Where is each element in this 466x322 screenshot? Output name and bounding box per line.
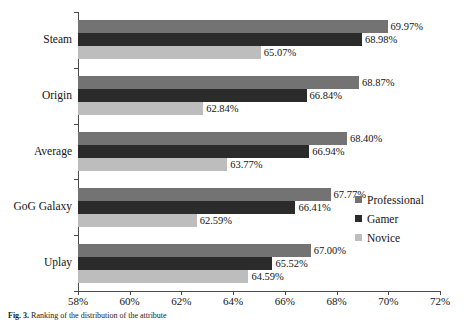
y-axis-category-label: Origin — [0, 89, 72, 101]
figure-container: 58%60%62%64%66%68%70%72% SteamOriginAver… — [0, 0, 466, 322]
chart-legend: ProfessionalGamerNovice — [355, 190, 465, 247]
x-axis-tick-label: 64% — [223, 295, 243, 307]
x-axis-line — [78, 291, 441, 292]
legend-item-novice[interactable]: Novice — [355, 228, 465, 247]
legend-swatch-icon — [355, 234, 362, 241]
y-axis-category-label: Average — [0, 145, 72, 157]
bar-professional-uplay — [78, 244, 311, 257]
y-axis-tick — [74, 124, 78, 125]
legend-swatch-icon — [355, 196, 362, 203]
bar-value-label: 65.52% — [275, 257, 307, 270]
legend-label: Novice — [367, 232, 400, 244]
figure-caption: Fig. 3. Ranking of the distribution of t… — [8, 311, 458, 321]
caption-text: Ranking of the distribution of the attri… — [31, 311, 167, 320]
y-axis-tick — [74, 291, 78, 292]
bar-value-label: 66.84% — [310, 89, 342, 102]
bar-value-label: 63.77% — [230, 158, 262, 171]
bar-professional-origin — [78, 76, 359, 89]
bar-value-label: 65.07% — [264, 46, 296, 59]
y-axis-tick — [74, 12, 78, 13]
x-axis-tick-label: 58% — [68, 295, 88, 307]
legend-swatch-icon — [355, 215, 362, 222]
bar-novice-uplay — [78, 270, 248, 283]
bar-value-label: 64.59% — [251, 270, 283, 283]
bar-value-label: 66.41% — [298, 201, 330, 214]
legend-label: Professional — [367, 194, 424, 206]
bar-novice-gog-galaxy — [78, 214, 197, 227]
bar-gamer-steam — [78, 33, 362, 46]
x-axis-tick-label: 60% — [120, 295, 140, 307]
bar-value-label: 67.00% — [314, 244, 346, 257]
bar-value-label: 68.87% — [362, 76, 394, 89]
bar-gamer-origin — [78, 89, 307, 102]
y-axis-tick — [74, 179, 78, 180]
x-axis-tick-label: 70% — [378, 295, 398, 307]
caption-prefix: Fig. 3. — [8, 311, 29, 320]
y-axis-category-label: Uplay — [0, 256, 72, 268]
y-axis-category-label: GoG Galaxy — [0, 200, 72, 212]
bar-novice-steam — [78, 46, 261, 59]
bar-professional-gog-galaxy — [78, 188, 331, 201]
bar-value-label: 68.98% — [365, 33, 397, 46]
legend-item-gamer[interactable]: Gamer — [355, 209, 465, 228]
y-axis-tick — [74, 68, 78, 69]
bar-value-label: 66.94% — [312, 145, 344, 158]
bar-professional-steam — [78, 20, 388, 33]
y-axis-category-label: Steam — [0, 33, 72, 45]
bar-novice-origin — [78, 102, 203, 115]
bar-value-label: 69.97% — [391, 20, 423, 33]
bar-professional-average — [78, 132, 347, 145]
legend-item-professional[interactable]: Professional — [355, 190, 465, 209]
x-axis-tick-label: 62% — [171, 295, 191, 307]
bar-gamer-uplay — [78, 257, 272, 270]
x-axis-tick-label: 68% — [326, 295, 346, 307]
bar-gamer-gog-galaxy — [78, 201, 295, 214]
y-axis-tick — [74, 235, 78, 236]
x-axis-tick-label: 72% — [430, 295, 450, 307]
bar-value-label: 62.84% — [206, 102, 238, 115]
legend-label: Gamer — [367, 213, 398, 225]
bar-gamer-average — [78, 145, 309, 158]
bar-value-label: 68.40% — [350, 132, 382, 145]
bar-value-label: 62.59% — [200, 214, 232, 227]
x-axis-tick-label: 66% — [275, 295, 295, 307]
bar-novice-average — [78, 158, 227, 171]
